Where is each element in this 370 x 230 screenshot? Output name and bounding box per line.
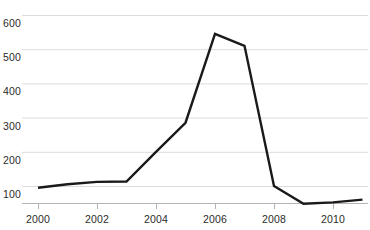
- y-tick-label-200: 200: [3, 155, 21, 166]
- y-tick-label-600: 600: [3, 18, 21, 29]
- y-tick-label-500: 500: [3, 52, 21, 63]
- chart-plot-area: [0, 0, 370, 230]
- y-tick-label-400: 400: [3, 86, 21, 97]
- x-tick-label-2008: 2008: [262, 214, 286, 225]
- y-tick-label-300: 300: [3, 121, 21, 132]
- x-tick-label-2004: 2004: [144, 214, 168, 225]
- x-tick-label-2000: 2000: [26, 214, 50, 225]
- x-tick-label-2010: 2010: [321, 214, 345, 225]
- line-chart: 100200300400500600 200020022004200620082…: [0, 0, 370, 230]
- y-tick-label-100: 100: [3, 189, 21, 200]
- data-series-line: [38, 34, 363, 204]
- x-tick-label-2002: 2002: [85, 214, 109, 225]
- x-tick-label-2006: 2006: [203, 214, 227, 225]
